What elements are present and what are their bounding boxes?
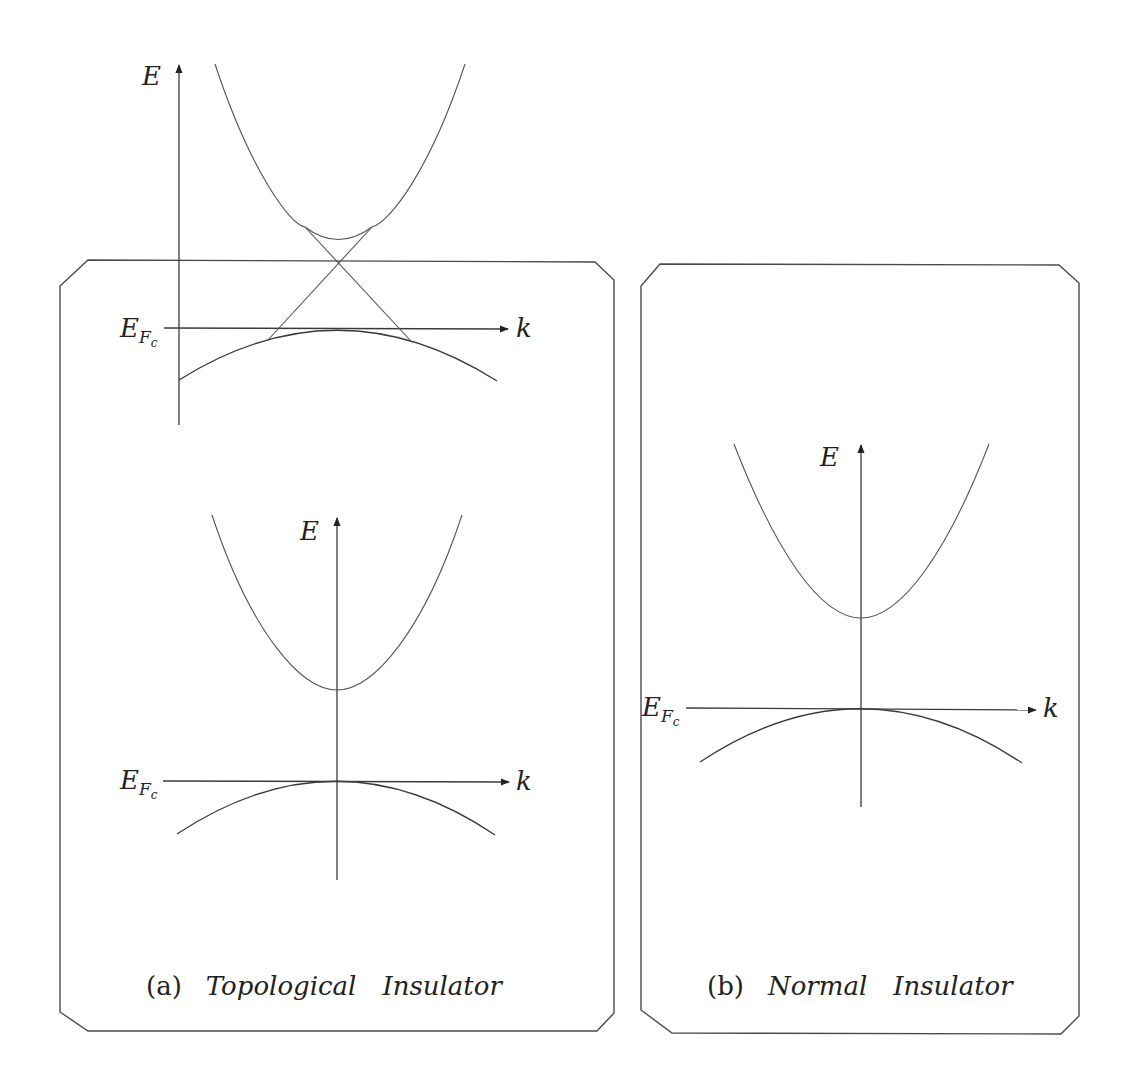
k-axis-label: k [1043,693,1059,723]
valence-band-curve [177,781,495,835]
energy-axis-label: E [141,61,161,91]
fermi-level-label: EFc [641,692,680,729]
energy-axis-label: E [299,516,319,546]
valence-band-curve [179,330,497,381]
caption-index: (a) [146,971,182,1001]
diagram-normal-insulator: E k EFc [641,442,1059,807]
caption-panel-b: (b)NormalInsulator [707,971,1014,1001]
k-axis [164,328,508,329]
caption-index: (b) [707,971,744,1001]
caption-panel-a: (a)TopologicalInsulator [146,971,503,1001]
diagram-topological-bulk: E k EFc [119,515,532,880]
k-axis-label: k [516,313,532,343]
conduction-band-curve [215,64,465,227]
energy-axis-label: E [819,442,839,472]
fermi-level-label: EFc [119,313,158,350]
band-structure-figure: E k EFc E k EFc E k EFc [0,0,1131,1090]
diagram-topological-surface: E k EFc [119,61,532,425]
panel-b-frame [641,264,1079,1034]
k-axis-label: k [516,766,532,796]
dirac-line-1 [305,227,410,340]
fermi-level-label: EFc [119,765,158,802]
